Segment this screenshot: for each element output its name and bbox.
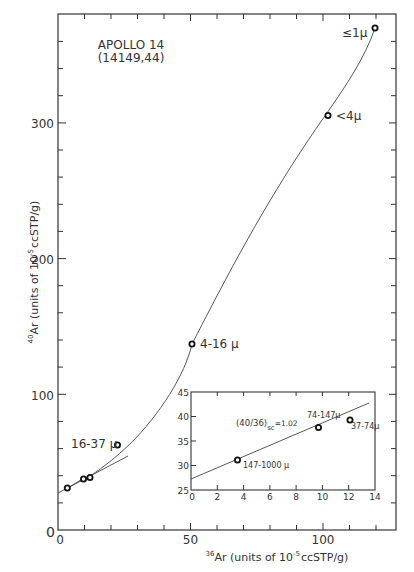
inset-xtick-4: 4 [241, 492, 247, 502]
inset-xtick-2: 2 [214, 492, 220, 502]
inset-xtick-14: 14 [369, 492, 381, 502]
point-37-74 [87, 475, 92, 480]
point-74-147 [81, 476, 86, 481]
annotation-le1: ≤1µ [342, 26, 368, 40]
inset-annotation-37-74: 37-74µ [351, 422, 379, 431]
annotation-lt4: <4µ [336, 109, 362, 123]
point-147-1000 [65, 485, 70, 490]
inset-xtick-10: 10 [317, 492, 329, 502]
main-ytick-100: 100 [31, 389, 54, 403]
inset-xtick-labels: 0 2 4 6 8 10 12 14 [189, 492, 381, 502]
inset-ytick-40: 40 [178, 412, 190, 422]
x-axis-label: 36Ar (units of 10-5ccSTP/g) [206, 550, 349, 564]
inset-ytick-45: 45 [178, 388, 189, 398]
inset-xtick-12: 12 [343, 492, 354, 502]
chart-subtitle: (14149,44) [98, 51, 165, 65]
chart-title: APOLLO 14 [98, 38, 164, 52]
inset-point-74-147 [316, 425, 321, 430]
inset-xtick-0: 0 [189, 492, 195, 502]
annotation-16-37: 16-37 µ [71, 437, 118, 451]
main-xtick-0: 0 [56, 533, 64, 547]
inset-annotation-147-1000: 147-1000 µ [243, 461, 289, 470]
inset-ytick-labels: 25 30 35 40 45 [178, 388, 190, 497]
main-ytick-300: 300 [31, 117, 54, 131]
inset-point-147-1000 [235, 457, 240, 462]
inset-ytick-35: 35 [178, 437, 189, 447]
argon-isotope-chart: 0 100 200 300 0 50 100 36Ar (units of 10… [0, 0, 414, 572]
main-xtick-100: 100 [312, 533, 335, 547]
point-lt4 [325, 113, 330, 118]
main-ytick-0: 0 [46, 524, 55, 540]
inset-xtick-8: 8 [293, 492, 299, 502]
main-xtick-50: 50 [183, 533, 198, 547]
inset-ytick-30: 30 [178, 461, 190, 471]
point-le1 [372, 25, 377, 30]
inset-xtick-6: 6 [267, 492, 273, 502]
y-axis-label: 40Ar (units of 10-5ccSTP/g) [27, 201, 41, 344]
inset-annotation-74-147: 74-147µ [307, 411, 340, 420]
annotation-4-16: 4-16 µ [200, 337, 239, 351]
inset-frame [191, 392, 375, 490]
point-4-16 [189, 341, 194, 346]
inset-ytick-25: 25 [178, 486, 189, 496]
